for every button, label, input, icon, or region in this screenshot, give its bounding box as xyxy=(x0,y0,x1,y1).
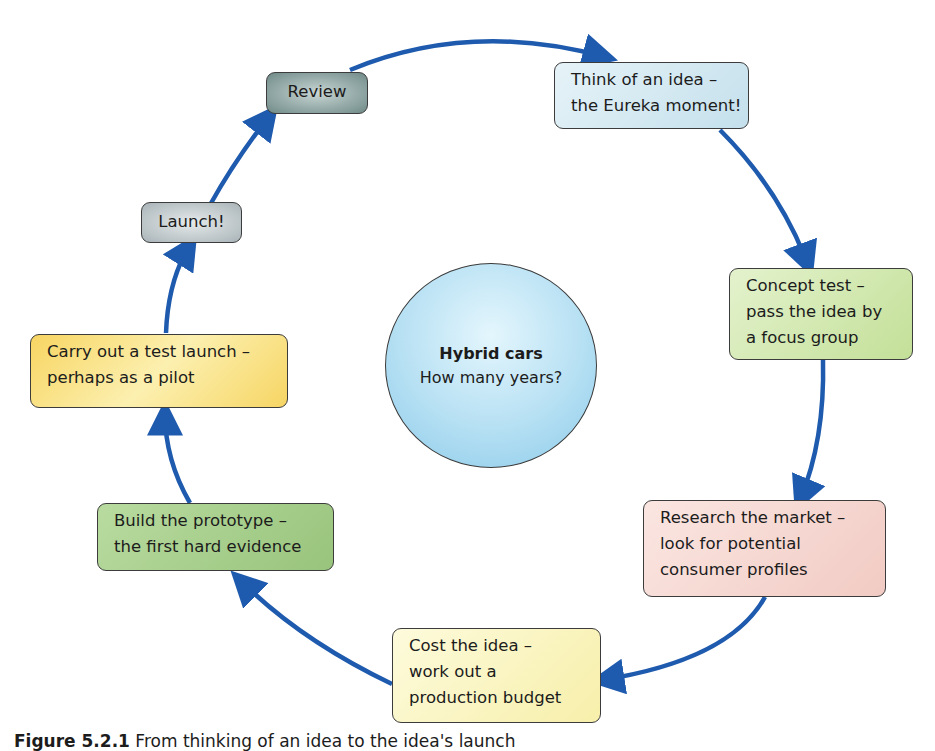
step-text: Launch! xyxy=(150,209,233,235)
center-title: Hybrid cars xyxy=(439,342,542,366)
step-text: the Eureka moment! xyxy=(571,93,732,119)
figure-label: Figure 5.2.1 xyxy=(14,731,130,751)
step-text: Think of an idea – xyxy=(571,67,732,93)
step-review: Review xyxy=(266,72,368,114)
step-text: production budget xyxy=(409,685,584,711)
step-text: Carry out a test launch – xyxy=(47,339,271,365)
step-text: consumer profiles xyxy=(660,557,869,583)
arrow-prototype-to-testlaunch xyxy=(165,413,190,503)
figure-caption: Figure 5.2.1 From thinking of an idea to… xyxy=(14,731,515,751)
step-text: Build the prototype – xyxy=(114,508,317,534)
step-launch: Launch! xyxy=(141,202,242,243)
step-think-of-idea: Think of an idea – the Eureka moment! xyxy=(554,62,749,129)
center-subtitle: How many years? xyxy=(420,366,563,390)
arrow-launch-to-review xyxy=(210,115,270,205)
step-text: the first hard evidence xyxy=(114,534,317,560)
step-text: pass the idea by xyxy=(746,299,896,325)
arrow-research-to-cost xyxy=(602,597,765,680)
step-test-launch: Carry out a test launch – perhaps as a p… xyxy=(30,334,288,408)
arrow-concept-to-research xyxy=(800,360,823,500)
step-text: Review xyxy=(275,79,359,105)
step-build-prototype: Build the prototype – the first hard evi… xyxy=(97,503,334,571)
step-cost-idea: Cost the idea – work out a production bu… xyxy=(392,628,601,723)
step-text: Research the market – xyxy=(660,505,869,531)
step-concept-test: Concept test – pass the idea by a focus … xyxy=(729,268,913,360)
step-text: a focus group xyxy=(746,325,896,351)
step-text: perhaps as a pilot xyxy=(47,365,271,391)
arrow-testlaunch-to-launch xyxy=(166,245,190,333)
arrow-cost-to-prototype xyxy=(240,580,392,684)
step-text: Cost the idea – xyxy=(409,633,584,659)
figure-caption-text: From thinking of an idea to the idea's l… xyxy=(135,731,515,751)
step-text: work out a xyxy=(409,659,584,685)
step-text: Concept test – xyxy=(746,273,896,299)
arrow-idea-to-concept xyxy=(720,130,808,265)
step-research-market: Research the market – look for potential… xyxy=(643,500,886,597)
center-topic-circle: Hybrid cars How many years? xyxy=(385,263,597,468)
step-text: look for potential xyxy=(660,531,869,557)
